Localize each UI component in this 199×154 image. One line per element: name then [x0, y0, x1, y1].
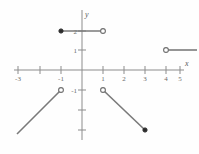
x-label-2: 2	[122, 75, 126, 83]
x-tick-labels: -3 -1 1 2 3 4 5	[15, 75, 182, 83]
x-label-4: 4	[164, 75, 168, 83]
x-label-5: 5	[178, 75, 182, 83]
y-label-1: 1	[74, 47, 78, 55]
closed-point--1-2	[59, 29, 63, 33]
open-point-1--1	[101, 88, 106, 93]
y-axis-label: y	[84, 10, 89, 19]
open-point-4-1	[164, 48, 169, 53]
open-point--1--1	[59, 88, 64, 93]
y-label-2: 2	[74, 28, 78, 36]
x-label--1: -1	[58, 75, 64, 83]
open-point-1-2	[101, 29, 106, 34]
endpoint-markers	[59, 29, 169, 133]
piecewise-function-plot: -3 -1 1 2 3 4 5 2 1 -1 x y	[0, 0, 199, 154]
closed-point-3--3	[143, 128, 147, 132]
x-axis-label: x	[184, 59, 189, 68]
y-label--1: -1	[71, 87, 77, 95]
function-segments	[17, 31, 197, 134]
segment-left-rising	[17, 90, 61, 134]
graph-canvas: -3 -1 1 2 3 4 5 2 1 -1 x y	[0, 0, 199, 154]
segment-right-falling	[103, 90, 145, 130]
x-label-1: 1	[101, 75, 105, 83]
axes-group	[14, 10, 184, 140]
x-label--3: -3	[15, 75, 21, 83]
x-label-3: 3	[143, 75, 147, 83]
y-tick-labels: 2 1 -1	[71, 28, 77, 95]
